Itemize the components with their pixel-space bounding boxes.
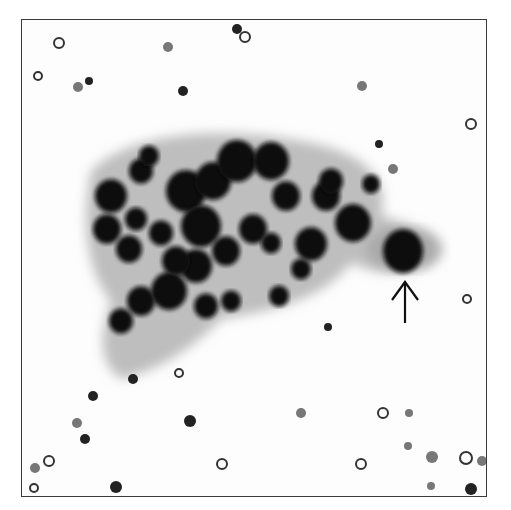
red-blood-cell — [30, 463, 40, 473]
nucleus — [291, 259, 311, 280]
red-blood-cell — [375, 140, 383, 148]
red-blood-cell — [128, 374, 138, 384]
red-blood-cell — [163, 42, 173, 52]
red-blood-cell — [378, 408, 388, 418]
nucleus — [253, 142, 289, 180]
nucleus — [127, 286, 155, 315]
nucleus — [335, 204, 371, 242]
micrograph-frame — [21, 19, 487, 497]
red-blood-cell — [217, 459, 227, 469]
nucleus — [272, 181, 300, 210]
nucleus — [149, 220, 173, 245]
red-blood-cell — [463, 295, 471, 303]
red-blood-cell — [426, 451, 438, 463]
red-blood-cell — [324, 323, 332, 331]
red-blood-cell — [466, 119, 476, 129]
nucleus — [194, 293, 218, 318]
red-blood-cell — [388, 164, 398, 174]
red-blood-cell — [178, 86, 188, 96]
red-blood-cell — [460, 452, 472, 464]
red-blood-cell — [175, 369, 183, 377]
nucleus — [295, 227, 327, 261]
nucleus — [151, 272, 187, 310]
nucleus — [261, 233, 281, 254]
red-blood-cell — [296, 408, 306, 418]
nucleus — [217, 140, 257, 182]
red-blood-cell — [404, 442, 412, 450]
nucleus — [162, 246, 190, 275]
red-blood-cell — [184, 415, 196, 427]
red-blood-cell — [85, 77, 93, 85]
red-blood-cell — [427, 482, 435, 490]
nucleus — [319, 168, 343, 193]
red-blood-cell — [88, 391, 98, 401]
red-blood-cell — [30, 484, 38, 492]
red-blood-cell — [356, 459, 366, 469]
arrow-annotation-icon — [392, 282, 418, 323]
nucleus — [269, 286, 289, 307]
nucleus — [139, 146, 159, 167]
red-blood-cell — [232, 24, 242, 34]
nucleus — [109, 308, 133, 333]
red-blood-cell — [80, 434, 90, 444]
nucleus — [93, 214, 121, 243]
nucleus — [362, 175, 380, 194]
red-blood-cell — [54, 38, 64, 48]
red-blood-cell — [44, 456, 54, 466]
nucleus — [181, 205, 221, 247]
red-blood-cell — [240, 32, 250, 42]
micrograph-image — [22, 20, 487, 497]
red-blood-cell — [405, 409, 413, 417]
nucleus — [212, 236, 240, 265]
red-blood-cell — [34, 72, 42, 80]
nucleus — [95, 179, 127, 213]
red-blood-cell — [357, 81, 367, 91]
red-blood-cell — [110, 481, 122, 493]
nucleus — [116, 235, 142, 262]
red-blood-cell — [465, 483, 477, 495]
red-blood-cell — [72, 418, 82, 428]
red-blood-cell — [73, 82, 83, 92]
nucleus — [221, 291, 241, 312]
nucleus — [125, 207, 147, 230]
red-blood-cell — [477, 456, 487, 466]
